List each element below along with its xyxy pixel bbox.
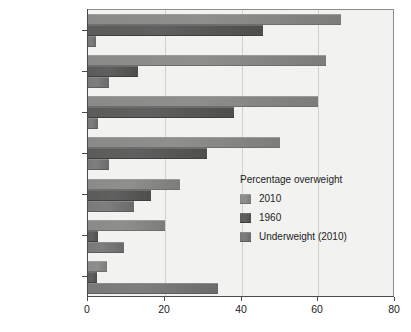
bar [88, 25, 263, 36]
legend-swatch-icon [240, 232, 251, 242]
x-tick-label-40: 40 [221, 303, 261, 315]
y-tick-mark [82, 153, 87, 154]
y-tick-mark [82, 276, 87, 277]
bar [88, 272, 97, 283]
legend-item: 2010 [240, 193, 347, 204]
x-tick-mark [164, 297, 165, 301]
y-tick-mark [82, 112, 87, 113]
x-tick-mark [241, 297, 242, 301]
bar-group [88, 257, 393, 297]
bar [88, 77, 109, 88]
bar [88, 36, 96, 47]
x-tick-label-80: 80 [374, 303, 411, 315]
legend-item: 1960 [240, 212, 347, 223]
chart-legend: Percentage overweight 20101960Underweigh… [240, 174, 347, 250]
x-tick-label-0: 0 [67, 303, 107, 315]
bar [88, 231, 98, 242]
bar [88, 261, 107, 272]
bar [88, 242, 124, 253]
y-axis-line [87, 9, 88, 297]
bar [88, 96, 318, 107]
x-tick-mark [394, 297, 395, 301]
x-tick-label-60: 60 [297, 303, 337, 315]
bar-group [88, 51, 393, 92]
y-tick-mark [82, 30, 87, 31]
legend-label: 2010 [259, 193, 281, 204]
bar [88, 55, 326, 66]
bar [88, 107, 234, 118]
plot-area [87, 9, 394, 297]
bar [88, 283, 218, 294]
x-tick-mark [317, 297, 318, 301]
legend-swatch-icon [240, 194, 251, 204]
bar [88, 159, 109, 170]
bar-group [88, 133, 393, 174]
bar [88, 14, 341, 25]
legend-title: Percentage overweight [240, 174, 347, 185]
legend-rows: 20101960Underweight (2010) [240, 193, 347, 242]
y-tick-mark [82, 71, 87, 72]
bar-group [88, 92, 393, 133]
legend-swatch-icon [240, 213, 251, 223]
bar-group [88, 10, 393, 51]
bar [88, 137, 280, 148]
bar [88, 148, 207, 159]
bar [88, 220, 165, 231]
bar [88, 179, 180, 190]
bar [88, 66, 138, 77]
x-tick-label-20: 20 [144, 303, 184, 315]
bar [88, 190, 151, 201]
bar [88, 118, 98, 129]
x-tick-mark [87, 297, 88, 301]
bar-chart: United StatesUnited KingdomCanadaFranceJ… [0, 0, 411, 332]
legend-label: Underweight (2010) [259, 231, 347, 242]
legend-label: 1960 [259, 212, 281, 223]
legend-item: Underweight (2010) [240, 231, 347, 242]
y-tick-mark [82, 194, 87, 195]
y-tick-mark [82, 235, 87, 236]
bar [88, 201, 134, 212]
